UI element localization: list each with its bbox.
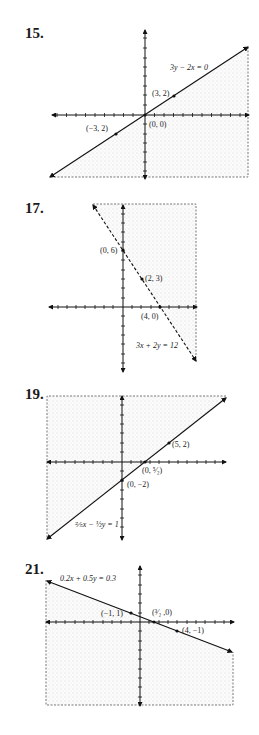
point-label: (3, 2): [152, 89, 170, 98]
point-label: (0, 6): [100, 246, 118, 255]
point-label: (0, −2): [127, 480, 149, 489]
point-x-intercept: [143, 460, 146, 463]
equation-label: ⅖x − ½y = 1: [75, 520, 119, 529]
point-x-intercept: [152, 620, 155, 623]
point-label: (0, 0): [149, 120, 167, 129]
graph-19: (5, 2) (0, ⁵⁄₂) (0, −2) ⅖x − ½y = 1: [47, 396, 226, 540]
equation-label: 3y − 2x = 0: [169, 63, 208, 72]
point-label: (5, 2): [172, 440, 190, 449]
point-2-3: [140, 277, 143, 280]
point-label: (−1, 1): [101, 609, 123, 618]
point-neg1-1: [129, 611, 132, 614]
point-label: (0, ⁵⁄₂): [142, 466, 163, 475]
point-label: (−3, 2): [86, 124, 108, 133]
equation-label: 0.2x + 0.5y = 0.3: [60, 574, 116, 583]
equation-label: 3x + 2y = 12: [135, 341, 178, 350]
point-4-0: [158, 305, 161, 308]
graph-15: 3y − 2x = 0 (3, 2) (0, 0) (−3, 2): [50, 30, 249, 179]
point-5-2: [167, 441, 170, 444]
point-neg3-neg2: [114, 132, 117, 135]
graphs-canvas: 3y − 2x = 0 (3, 2) (0, 0) (−3, 2) (0, 6)…: [0, 0, 259, 735]
point-4-neg1: [175, 629, 178, 632]
point-0-0: [143, 113, 146, 116]
point-label: (4, −1): [182, 626, 204, 635]
point-0-neg2: [120, 478, 123, 481]
point-0-6: [121, 248, 124, 251]
point-label: (2, 3): [145, 274, 163, 283]
point-label: (4, 0): [141, 312, 159, 321]
graph-17: (0, 6) (2, 3) (4, 0) 3x + 2y = 12: [49, 204, 197, 372]
point-label: (³⁄₂ ,0): [152, 608, 172, 617]
point-3-2: [172, 94, 175, 97]
graph-21: 0.2x + 0.5y = 0.3 (−1, 1) (³⁄₂ ,0) (4, −…: [46, 566, 234, 706]
